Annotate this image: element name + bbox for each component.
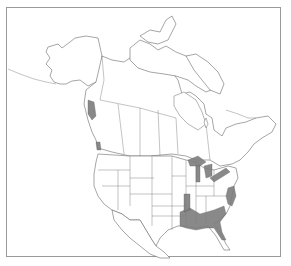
north-america-range-map — [0, 0, 291, 266]
quebec-labrador-border — [226, 110, 256, 118]
aleutian-islands — [8, 69, 56, 84]
usa-outline — [94, 154, 238, 250]
ellesmere-island — [140, 16, 176, 44]
alaska-outline — [46, 36, 104, 86]
lake-michigan-range — [196, 166, 200, 182]
mississippi-valley-range — [184, 194, 190, 212]
oregon-coast-range — [96, 142, 101, 150]
